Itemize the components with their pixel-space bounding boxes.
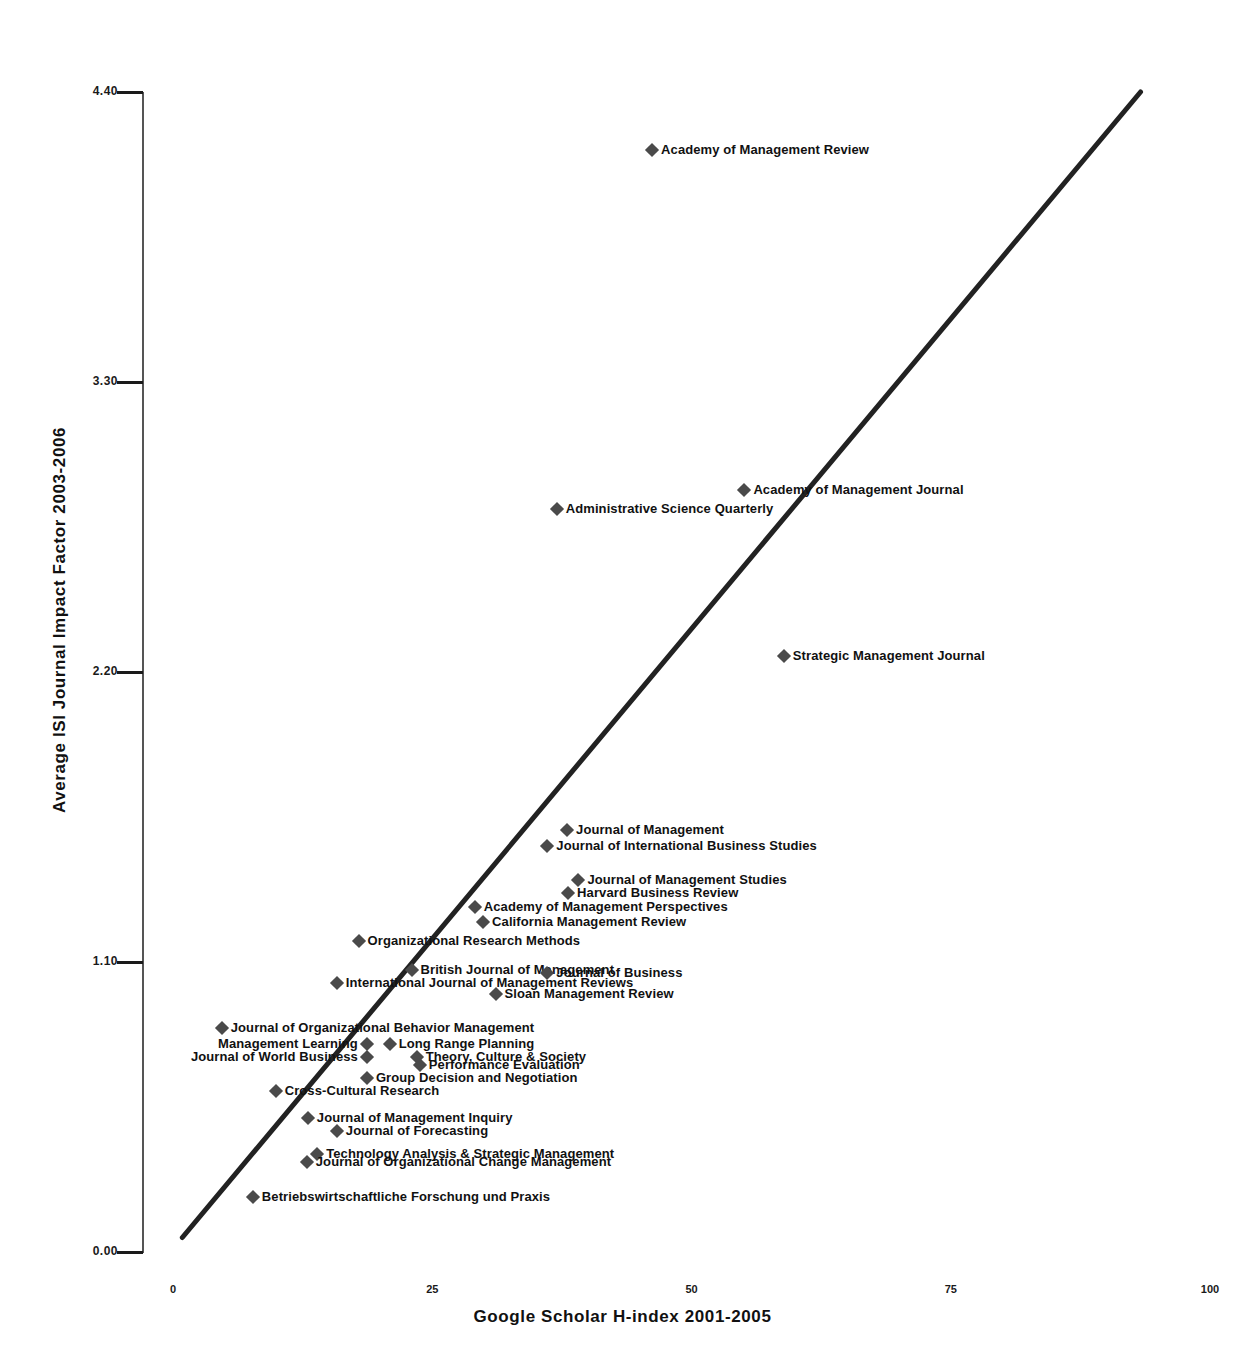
data-point-label: California Management Review [492,914,686,929]
data-point-label: Sloan Management Review [505,986,674,1001]
diamond-marker-icon [330,976,344,990]
diamond-marker-icon [360,1037,374,1051]
diamond-marker-icon [301,1110,315,1124]
diamond-marker-icon [269,1084,283,1098]
diamond-marker-icon [215,1021,229,1035]
diamond-marker-icon [300,1155,314,1169]
diamond-marker-icon [550,501,564,515]
data-point-label: Administrative Science Quarterly [566,501,774,516]
diamond-marker-icon [540,839,554,853]
data-point-label: Cross-Cultural Research [285,1083,440,1098]
plot-area: Academy of Management ReviewAcademy of M… [0,0,1245,1361]
diamond-marker-icon [476,915,490,929]
diamond-marker-icon [468,900,482,914]
diamond-marker-icon [645,143,659,157]
diamond-marker-icon [560,823,574,837]
data-point-label: Journal of Organizational Behavior Manag… [231,1020,535,1035]
data-point-label: Journal of World Business [191,1049,358,1064]
data-point-label: Journal of Management [576,822,724,837]
data-point-label: Betriebswirtschaftliche Forschung und Pr… [262,1189,550,1204]
diamond-marker-icon [360,1050,374,1064]
data-point-label: Journal of International Business Studie… [556,838,817,853]
diamond-marker-icon [330,1124,344,1138]
diamond-marker-icon [737,483,751,497]
data-point-label: Strategic Management Journal [793,648,985,663]
data-point-label: Journal of Forecasting [346,1123,488,1138]
diamond-marker-icon [352,934,366,948]
data-point-label: Journal of Organizational Change Managem… [316,1154,611,1169]
data-point-label: Organizational Research Methods [368,933,581,948]
data-point-label: Academy of Management Review [661,142,869,157]
data-point-label: Academy of Management Perspectives [484,899,728,914]
diamond-marker-icon [246,1190,260,1204]
data-point-label: Academy of Management Journal [753,482,963,497]
diamond-marker-icon [777,649,791,663]
trendline [0,0,1245,1361]
scatter-chart: 0.001.102.203.304.40 0255075100 Average … [0,0,1245,1361]
diamond-marker-icon [383,1037,397,1051]
